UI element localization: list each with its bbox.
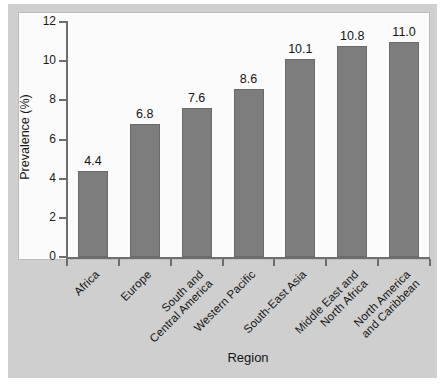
bar-value-label: 10.8 — [328, 30, 376, 43]
y-tick-mark — [59, 60, 67, 62]
y-tick-label: 8 — [30, 93, 56, 105]
x-tick-mark — [66, 259, 68, 266]
x-tick-mark — [429, 259, 431, 266]
bar — [182, 108, 212, 257]
bar — [130, 124, 160, 257]
bar — [78, 171, 108, 257]
y-tick-label: 2 — [30, 211, 56, 223]
bar-value-label: 10.1 — [276, 43, 324, 56]
y-tick-mark — [59, 139, 67, 141]
bar — [234, 89, 264, 257]
y-tick-label-text: 12 — [34, 15, 56, 27]
bar-value-label: 8.6 — [225, 73, 273, 86]
y-tick-label-text: 2 — [34, 211, 56, 223]
x-tick-mark — [222, 259, 224, 266]
y-tick-label-text: 0 — [34, 250, 56, 262]
bar-value-label: 4.4 — [69, 155, 117, 168]
bar-value-label: 11.0 — [380, 26, 428, 39]
y-tick-label: 6 — [30, 133, 56, 145]
bar-value-label: 6.8 — [121, 108, 169, 121]
x-axis-title: Region — [66, 350, 430, 365]
y-tick-mark — [59, 99, 67, 101]
x-tick-mark — [118, 259, 120, 266]
x-tick-mark — [377, 259, 379, 266]
y-tick-label: 12 — [30, 15, 56, 27]
y-tick-label: 4 — [30, 172, 56, 184]
y-tick-label-text: 10 — [34, 54, 56, 66]
y-axis-title: Prevalence (%) — [18, 72, 32, 202]
x-tick-mark — [170, 259, 172, 266]
y-tick-label: 0 — [30, 250, 56, 262]
bar — [285, 59, 315, 257]
x-axis-line — [66, 257, 430, 259]
y-tick-label: 10 — [30, 54, 56, 66]
bar — [337, 46, 367, 258]
y-tick-label-text: 8 — [34, 93, 56, 105]
y-tick-mark — [59, 178, 67, 180]
x-tick-mark — [325, 259, 327, 266]
y-tick-label-text: 6 — [34, 133, 56, 145]
y-tick-mark — [59, 217, 67, 219]
x-tick-mark — [273, 259, 275, 266]
bar — [389, 42, 419, 257]
chart-figure: 024681012 4.46.87.68.610.110.811.0 Afric… — [0, 0, 445, 386]
bar-value-label: 7.6 — [173, 92, 221, 105]
y-tick-mark — [59, 256, 67, 258]
y-tick-mark — [59, 21, 67, 23]
y-tick-label-text: 4 — [34, 172, 56, 184]
